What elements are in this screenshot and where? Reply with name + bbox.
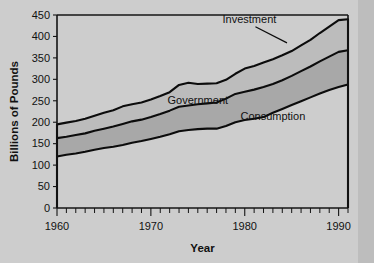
y-tick-label: 150 xyxy=(32,137,50,149)
leader-line-investment xyxy=(255,27,287,43)
chart-page: 0501001502002503003504004501960197019801… xyxy=(0,0,374,263)
y-tick-label: 200 xyxy=(32,116,50,128)
stacked-area-chart: 0501001502002503003504004501960197019801… xyxy=(0,0,374,263)
x-tick-label: 1990 xyxy=(326,220,350,232)
y-tick-label: 400 xyxy=(32,30,50,42)
y-axis-title: Billions of Pounds xyxy=(8,61,20,162)
series-label-consumption: Consumption xyxy=(240,110,305,122)
y-tick-label: 50 xyxy=(38,180,50,192)
y-tick-label: 250 xyxy=(32,95,50,107)
x-axis-title: Year xyxy=(190,242,215,254)
y-tick-label: 350 xyxy=(32,52,50,64)
x-tick-label: 1970 xyxy=(139,220,163,232)
x-tick-label: 1960 xyxy=(45,220,69,232)
y-tick-label: 300 xyxy=(32,73,50,85)
series-label-government: Government xyxy=(168,94,229,106)
y-tick-label: 100 xyxy=(32,159,50,171)
y-tick-label: 0 xyxy=(44,202,50,214)
x-tick-label: 1980 xyxy=(232,220,256,232)
series-label-investment: Investment xyxy=(223,13,277,25)
y-tick-label: 450 xyxy=(32,9,50,21)
